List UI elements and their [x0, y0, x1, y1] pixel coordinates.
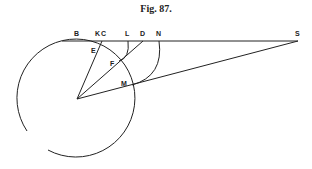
geometry-diagram: B K C L D N S E F M: [0, 0, 312, 169]
label-f: F: [110, 60, 115, 67]
label-m: M: [121, 80, 127, 87]
label-e: E: [91, 47, 96, 54]
label-c: C: [101, 30, 106, 37]
label-b: B: [74, 30, 79, 37]
label-d: D: [140, 30, 145, 37]
label-n: N: [156, 30, 161, 37]
label-k: K: [95, 30, 100, 37]
label-l: L: [125, 30, 130, 37]
label-s: S: [295, 30, 300, 37]
line-oc: [77, 41, 102, 99]
main-circle-arc: [17, 39, 135, 157]
arc-lf: [119, 41, 128, 61]
